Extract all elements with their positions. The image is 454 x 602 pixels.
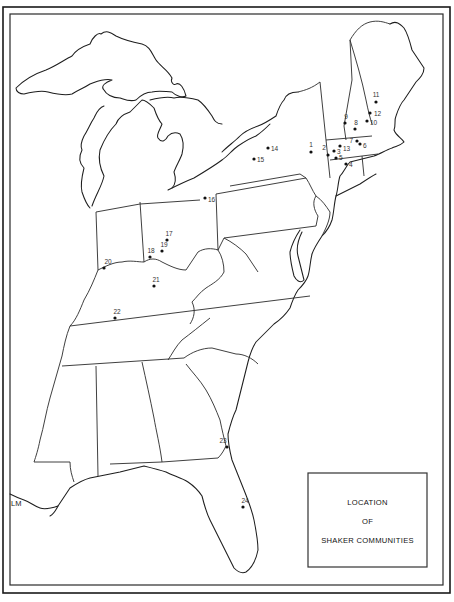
border-ohio-river	[98, 249, 218, 270]
community-dot	[343, 121, 346, 124]
lake-huron-north-shore	[150, 97, 222, 124]
community-marker: 20	[102, 258, 112, 270]
community-number: 13	[343, 145, 351, 152]
chesapeake-bay	[290, 230, 304, 282]
border-nc-tennessee	[168, 318, 210, 360]
community-dot	[358, 142, 361, 145]
community-dot	[338, 144, 341, 147]
community-number: 14	[271, 145, 279, 152]
community-marker: 6	[358, 142, 367, 149]
border-indiana-illinois	[96, 212, 98, 270]
long-island	[336, 174, 376, 196]
community-number: 17	[165, 230, 173, 237]
community-number: 24	[241, 497, 249, 504]
community-marker: 2	[322, 144, 329, 157]
community-markers: 123456789101112131415161718192021222324	[102, 91, 381, 509]
border-pennsylvania	[216, 178, 318, 250]
lake-ontario	[222, 92, 298, 152]
community-marker: 5	[334, 154, 343, 161]
border-new-york-canada	[298, 82, 320, 92]
community-dot	[266, 146, 269, 149]
border-new-york-vermont	[320, 82, 330, 178]
community-marker: 9	[343, 113, 348, 125]
border-vermont-nh	[344, 40, 352, 140]
border-indiana-ohio	[140, 202, 144, 262]
community-number: 7	[349, 137, 353, 144]
community-number: 12	[374, 110, 382, 117]
cartographer-initials: LM	[11, 499, 21, 508]
state-borders	[34, 21, 390, 482]
community-dot	[326, 153, 329, 156]
community-dot	[152, 284, 155, 287]
community-dot	[113, 316, 116, 319]
border-west-virginia	[192, 250, 224, 302]
lake-erie	[168, 124, 270, 190]
community-marker: 18	[147, 247, 155, 259]
community-marker: 23	[219, 437, 228, 449]
community-marker: 19	[160, 241, 168, 253]
community-dot	[241, 505, 244, 508]
community-marker: 21	[152, 276, 160, 288]
community-marker: 24	[241, 497, 249, 509]
community-marker: 1	[309, 141, 313, 154]
community-number: 9	[344, 113, 348, 120]
border-kentucky-virginia	[190, 302, 194, 324]
border-virginia-maryland	[224, 238, 258, 272]
community-dot	[203, 196, 206, 199]
community-dot	[225, 445, 228, 448]
community-number: 11	[373, 91, 380, 98]
community-marker: 7	[349, 137, 358, 144]
border-michigan-indiana-ohio	[96, 200, 200, 212]
michigan-lower-peninsula	[92, 100, 183, 206]
community-dot	[252, 157, 255, 160]
community-number: 18	[147, 247, 155, 254]
border-georgia-florida	[110, 446, 226, 464]
community-marker: 17	[165, 230, 173, 242]
community-dot	[332, 149, 335, 152]
community-number: 2	[322, 144, 326, 151]
community-number: 8	[354, 119, 358, 126]
border-kentucky-tennessee	[70, 296, 310, 326]
community-marker: 15	[252, 156, 264, 163]
community-dot	[148, 255, 151, 258]
border-louisiana	[34, 462, 74, 482]
community-dot	[365, 119, 368, 122]
community-dot	[344, 162, 347, 165]
community-marker: 10	[365, 119, 377, 126]
community-number: 16	[208, 196, 216, 203]
border-nc-sc	[184, 348, 258, 364]
legend-title-line-1: LOCATION	[347, 498, 388, 507]
community-dot	[374, 100, 377, 103]
community-number: 22	[113, 308, 121, 315]
community-marker: 14	[266, 145, 278, 152]
community-marker: 8	[353, 119, 358, 131]
community-dot	[334, 156, 337, 159]
community-number: 15	[257, 156, 265, 163]
border-nh-maine	[350, 40, 372, 124]
community-number: 5	[339, 154, 343, 161]
border-mississippi-alabama	[96, 366, 98, 476]
community-marker: 12	[368, 110, 381, 117]
community-dot	[353, 127, 356, 130]
border-ohio-pennsylvania	[216, 194, 218, 250]
border-maine-canada	[350, 21, 390, 40]
community-dot	[160, 249, 163, 252]
community-number: 20	[104, 258, 112, 265]
community-marker: 22	[113, 308, 121, 320]
community-number: 23	[219, 437, 227, 444]
border-sc-georgia	[186, 364, 226, 446]
community-marker: 16	[203, 196, 215, 203]
shaker-communities-map: 123456789101112131415161718192021222324 …	[0, 0, 454, 602]
community-dot	[355, 139, 358, 142]
community-number: 19	[160, 241, 168, 248]
community-number: 6	[363, 142, 367, 149]
community-dot	[309, 150, 312, 153]
lake-michigan-west-shore	[80, 106, 104, 208]
community-number: 1	[309, 141, 313, 148]
border-alabama-georgia	[142, 362, 162, 462]
legend-title-line-3: SHAKER COMMUNITIES	[321, 536, 414, 545]
community-dot	[102, 266, 105, 269]
legend: LOCATION OF SHAKER COMMUNITIES	[308, 473, 427, 567]
community-number: 21	[152, 276, 160, 283]
community-marker: 11	[373, 91, 380, 104]
